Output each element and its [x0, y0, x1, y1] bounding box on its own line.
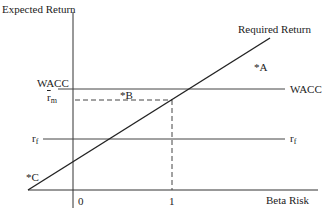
- tick-one-label: 1: [169, 196, 175, 207]
- wacc-right-label: WACC: [290, 84, 322, 95]
- wacc-left-label: WACC: [37, 78, 69, 89]
- point-b-label: *B: [120, 90, 133, 101]
- required-return-label: Required Return: [238, 24, 311, 35]
- y-axis-title: Expected Return: [2, 4, 76, 15]
- rm-label: rm: [47, 92, 57, 105]
- point-a-label: *A: [254, 62, 267, 73]
- tick-zero-label: 0: [78, 196, 84, 207]
- required-return-line: [28, 38, 270, 190]
- x-axis-title: Beta Risk: [266, 195, 309, 206]
- rf-right-label: rf: [290, 133, 296, 146]
- rf-left-label: rf: [32, 133, 38, 146]
- point-c-label: *C: [26, 172, 39, 183]
